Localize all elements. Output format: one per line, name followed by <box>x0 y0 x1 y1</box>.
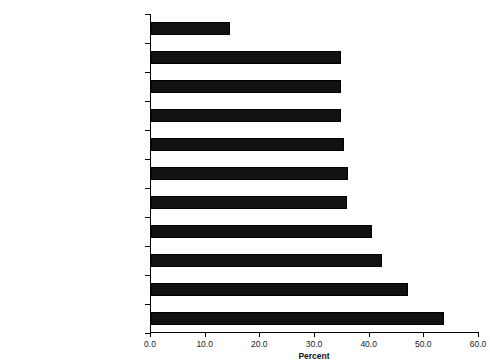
bar <box>151 225 372 238</box>
y-tick <box>145 159 151 160</box>
bar-row: Queens County, New York <box>150 275 490 304</box>
bar-row: San Francisco County, California <box>150 43 490 72</box>
y-tick <box>145 43 151 44</box>
y-tick <box>145 275 151 276</box>
bar-row: Miami-Dade County, Florida <box>150 304 490 333</box>
bar <box>151 283 408 296</box>
x-tick-label: 20.0 <box>239 339 279 349</box>
x-tick-label: 30.0 <box>294 339 334 349</box>
x-tick-label: 60.0 <box>458 339 490 349</box>
x-tick <box>478 332 479 337</box>
y-tick <box>145 72 151 73</box>
bar-row: UNITED STATES <box>150 14 490 43</box>
x-axis-title: Percent <box>150 351 478 361</box>
bar <box>151 196 347 209</box>
x-tick <box>423 332 424 337</box>
x-tick-label: 40.0 <box>349 339 389 349</box>
bar-row: Hudson County, New Jersey <box>150 246 490 275</box>
bar-row: Santa Clara County, California <box>150 217 490 246</box>
bar-row: Broward County, Florida <box>150 188 490 217</box>
y-tick <box>145 188 151 189</box>
x-tick <box>314 332 315 337</box>
bar <box>151 109 341 122</box>
chart-title <box>0 0 490 3</box>
y-tick <box>145 217 151 218</box>
x-tick <box>259 332 260 337</box>
bar-row: San Mateo County, California <box>150 101 490 130</box>
x-tick <box>205 332 206 337</box>
y-tick <box>145 246 151 247</box>
y-tick <box>145 130 151 131</box>
bar <box>151 138 344 151</box>
bar-chart: UNITED STATESSan Francisco County, Calif… <box>0 0 490 363</box>
bar <box>151 254 382 267</box>
x-tick-label: 50.0 <box>403 339 443 349</box>
bar <box>151 167 348 180</box>
bar <box>151 51 341 64</box>
bar-row: Kings County, New York <box>150 159 490 188</box>
bar <box>151 312 444 325</box>
bar <box>151 22 230 35</box>
bar <box>151 80 341 93</box>
x-tick-label: 10.0 <box>185 339 225 349</box>
y-tick <box>145 101 151 102</box>
bar-row: Middlesex County, New Jersey <box>150 130 490 159</box>
bar-rows: UNITED STATESSan Francisco County, Calif… <box>150 14 490 332</box>
y-tick <box>145 304 151 305</box>
x-tick <box>150 332 151 337</box>
x-tick-label: 0.0 <box>130 339 170 349</box>
x-tick <box>369 332 370 337</box>
bar-row: Alameda County, California <box>150 72 490 101</box>
y-tick <box>145 14 151 15</box>
